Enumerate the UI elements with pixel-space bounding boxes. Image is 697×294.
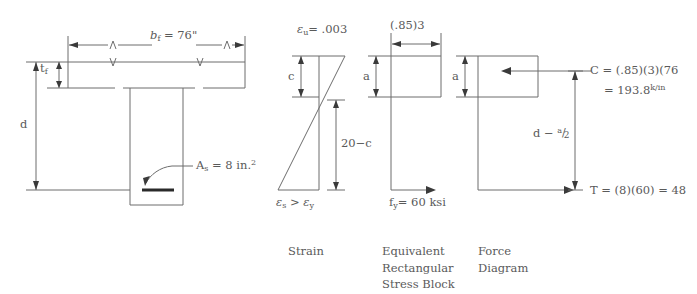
force-block-depth-label: a [452,70,459,82]
caption-strain: Strain [288,243,324,260]
caption-stress-block-line1: Equivalent [382,243,455,260]
caption-force-diagram: Force Diagram [478,243,528,276]
caption-stress-block: Equivalent Rectangular Stress Block [382,243,455,293]
caption-stress-block-line3: Stress Block [382,276,455,293]
caption-force-line1: Force [478,243,528,260]
figure-canvas: bf = 76" d tf As = 8 in.2 εu= .003 c 2 [0,0,697,294]
compression-force-label: C = (.85)(3)(76 [590,64,678,76]
force-diagram [0,0,697,294]
caption-stress-block-line2: Rectangular [382,260,455,277]
compression-force-value: = 193.8k/in [604,84,665,96]
tension-force-label: T = (8)(60) = 48 [590,184,686,196]
lever-arm-label: d − a/2 [533,127,572,140]
caption-force-line2: Diagram [478,260,528,277]
